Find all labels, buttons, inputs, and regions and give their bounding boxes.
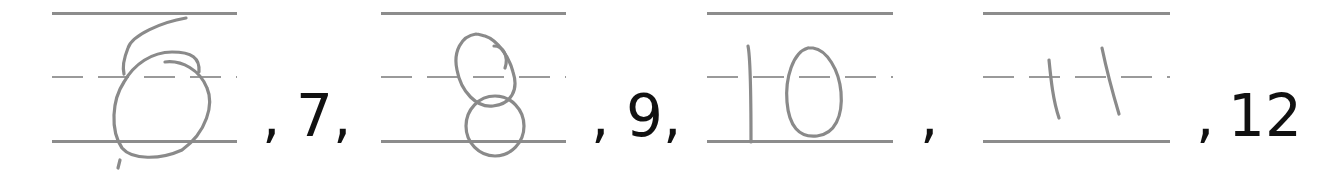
answer-box-3[interactable]: 10 xyxy=(707,0,893,172)
printed-number-12: 12 xyxy=(1228,84,1302,148)
handwritten-digit-6 xyxy=(52,0,237,172)
printed-number-7: 7, xyxy=(296,84,351,148)
separator-comma: , xyxy=(262,84,280,148)
answer-box-1[interactable]: 6 xyxy=(52,0,237,172)
handwritten-digit-10 xyxy=(707,0,893,172)
separator-comma: , xyxy=(591,84,609,148)
handwritten-digit-8 xyxy=(381,0,566,172)
separator-comma: , xyxy=(1196,84,1214,148)
answer-box-4[interactable]: 11 xyxy=(983,0,1170,172)
printed-number-9: 9, xyxy=(626,84,681,148)
answer-box-2[interactable]: 8 xyxy=(381,0,566,172)
separator-comma: , xyxy=(920,84,938,148)
handwritten-digit-11 xyxy=(983,0,1170,172)
